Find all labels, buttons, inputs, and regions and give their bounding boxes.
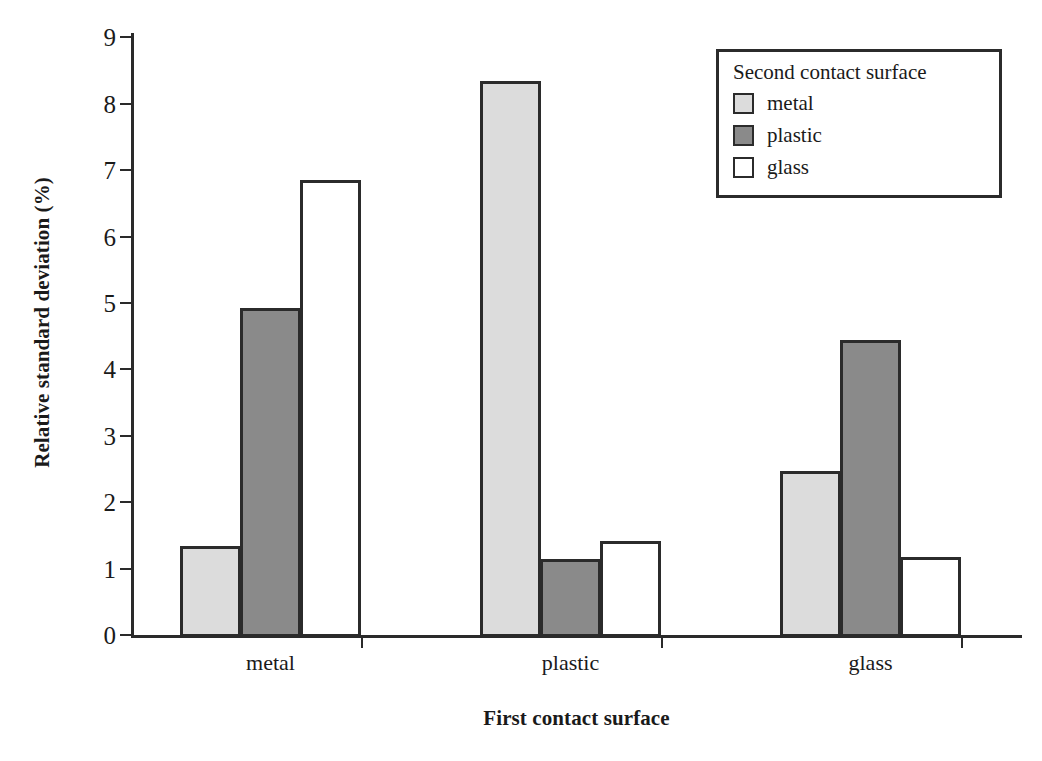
y-tick-mark bbox=[120, 302, 131, 304]
x-group-label-glass: glass bbox=[761, 650, 981, 676]
y-tick-mark bbox=[120, 103, 131, 105]
y-tick-label: 8 bbox=[80, 91, 116, 116]
legend-entry-plastic: plastic bbox=[733, 119, 985, 151]
y-tick-label: 2 bbox=[80, 490, 116, 515]
bar-metal-metal bbox=[180, 546, 241, 637]
x-axis-title: First contact surface bbox=[131, 706, 1022, 731]
y-tick-mark bbox=[120, 169, 131, 171]
y-tick-mark bbox=[120, 435, 131, 437]
bar-metal-plastic bbox=[240, 308, 301, 637]
y-axis-line bbox=[131, 33, 134, 637]
legend-title: Second contact surface bbox=[733, 60, 985, 84]
y-tick-label: 6 bbox=[80, 224, 116, 249]
bar-glass-metal bbox=[780, 471, 841, 637]
legend-swatch-plastic bbox=[733, 125, 754, 146]
bar-glass-glass bbox=[900, 557, 961, 637]
y-tick-mark bbox=[120, 501, 131, 503]
bar-chart: Relative standard deviation (%) 98765432… bbox=[0, 0, 1042, 761]
y-tick-label: 7 bbox=[80, 158, 116, 183]
legend-entries: metalplasticglass bbox=[733, 87, 985, 183]
bar-glass-plastic bbox=[840, 340, 901, 637]
y-tick-label: 5 bbox=[80, 291, 116, 316]
bar-metal-glass bbox=[300, 180, 361, 637]
x-tick-mark bbox=[661, 637, 663, 648]
legend-label-metal: metal bbox=[767, 93, 814, 114]
legend-entry-metal: metal bbox=[733, 87, 985, 119]
y-tick-mark bbox=[120, 568, 131, 570]
y-tick-label: 1 bbox=[80, 556, 116, 581]
y-tick-label: 4 bbox=[80, 357, 116, 382]
bar-plastic-glass bbox=[600, 541, 661, 637]
y-tick-label: 3 bbox=[80, 423, 116, 448]
legend-swatch-glass bbox=[733, 157, 754, 178]
y-tick-mark bbox=[120, 36, 131, 38]
bar-plastic-plastic bbox=[540, 559, 601, 637]
x-tick-mark bbox=[961, 637, 963, 648]
legend-entry-glass: glass bbox=[733, 151, 985, 183]
x-group-label-plastic: plastic bbox=[461, 650, 681, 676]
y-tick-mark bbox=[120, 634, 131, 636]
y-tick-label: 0 bbox=[80, 623, 116, 648]
y-tick-label: 9 bbox=[80, 25, 116, 50]
x-axis-line bbox=[131, 635, 1022, 638]
legend: Second contact surface metalplasticglass bbox=[716, 49, 1002, 198]
y-axis-title: Relative standard deviation (%) bbox=[30, 113, 55, 533]
y-tick-mark bbox=[120, 368, 131, 370]
x-group-label-metal: metal bbox=[161, 650, 381, 676]
legend-swatch-metal bbox=[733, 93, 754, 114]
y-tick-mark bbox=[120, 236, 131, 238]
x-tick-mark bbox=[361, 637, 363, 648]
legend-label-plastic: plastic bbox=[767, 125, 822, 146]
bar-plastic-metal bbox=[480, 81, 541, 637]
legend-label-glass: glass bbox=[767, 157, 809, 178]
